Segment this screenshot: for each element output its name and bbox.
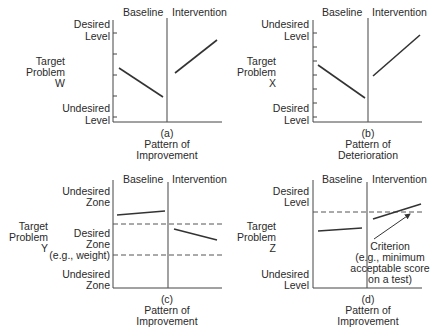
intervention-trend (175, 40, 217, 73)
baseline-label: Baseline (322, 6, 362, 18)
baseline-label: Baseline (322, 173, 362, 185)
intervention-label: Intervention (172, 6, 227, 18)
intervention-label: Intervention (372, 173, 427, 185)
baseline-trend (119, 68, 163, 97)
y-label-3: W (55, 77, 65, 89)
top-label-2: Level (284, 30, 309, 42)
panel-b: Baseline Intervention Undesired Level Ta… (237, 6, 427, 161)
middle-label-3: (e.g., weight) (49, 249, 110, 261)
y-label-3: Y (41, 242, 48, 254)
bottom-label-2: Zone (86, 279, 110, 291)
caption-3: Improvement (337, 315, 398, 327)
intervention-trend (174, 229, 217, 240)
panel-c: Baseline Intervention Undesired Zone Tar… (9, 173, 227, 327)
y-ticks (113, 33, 117, 117)
baseline-trend (117, 211, 165, 215)
bottom-label-1: Desired (273, 102, 309, 114)
intervention-label: Intervention (372, 6, 427, 18)
panel-d: Baseline Intervention Desired Level Targ… (237, 173, 430, 327)
top-label-2: Level (284, 196, 309, 208)
baseline-label: Baseline (123, 6, 163, 18)
baseline-trend (318, 228, 362, 231)
caption-3: Improvement (136, 149, 197, 161)
single-case-design-figure: Baseline Intervention Desired Level Targ… (0, 0, 434, 333)
bottom-label-1: Undesired (62, 102, 110, 114)
top-label-1: Undesired (261, 18, 309, 30)
top-label-1: Desired (74, 18, 110, 30)
annotation-4: on a test) (368, 273, 412, 285)
caption-3: Improvement (136, 315, 197, 327)
intervention-trend (373, 35, 420, 76)
baseline-trend (318, 65, 365, 98)
top-label-2: Zone (86, 196, 110, 208)
caption-3: Deterioration (338, 149, 398, 161)
y-label-3: X (269, 77, 276, 89)
baseline-label: Baseline (123, 173, 163, 185)
bottom-label-2: Level (85, 114, 110, 126)
intervention-label: Intervention (172, 173, 227, 185)
y-label-3: Z (270, 242, 277, 254)
panel-a: Baseline Intervention Desired Level Targ… (26, 6, 227, 161)
top-label-2: Level (85, 30, 110, 42)
bottom-label-2: Level (284, 279, 309, 291)
y-ticks (313, 33, 317, 117)
bottom-label-2: Level (284, 114, 309, 126)
